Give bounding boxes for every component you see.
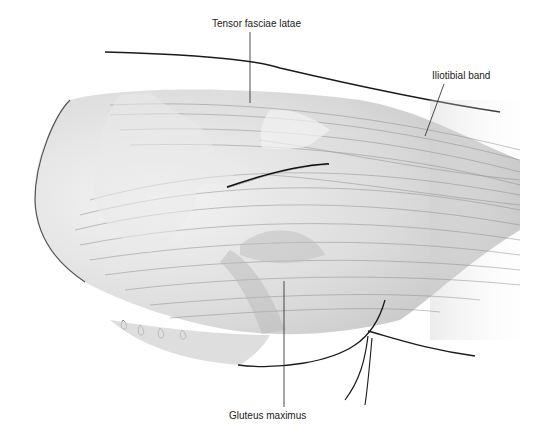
label-gluteus-maximus: Gluteus maximus (229, 410, 306, 421)
anatomy-illustration (0, 0, 542, 445)
label-tensor-fasciae-latae: Tensor fasciae latae (212, 18, 301, 29)
leg-outline (345, 336, 368, 400)
label-iliotibial-band: Iliotibial band (432, 70, 490, 81)
